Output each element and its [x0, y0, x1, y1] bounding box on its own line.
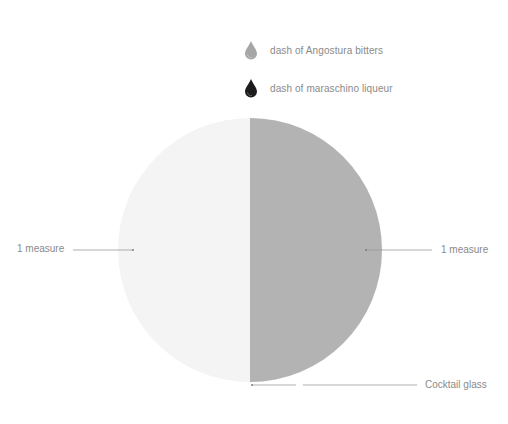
cocktail-glass-diagram [0, 0, 508, 424]
left-measure-label: 1 measure [17, 243, 64, 254]
right-measure-label: 1 measure [441, 244, 488, 255]
right-half-segment [250, 118, 382, 382]
left-half-segment [118, 118, 250, 382]
glass-type-label: Cocktail glass [425, 379, 487, 390]
